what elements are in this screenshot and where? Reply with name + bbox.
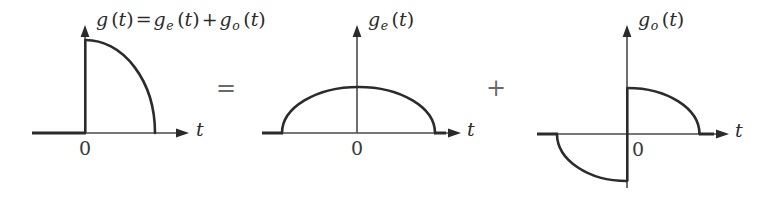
panel-ge-title-arg-open: ( [392, 8, 399, 30]
panel-g-title-term2-arg-open: ( [243, 8, 250, 30]
panel-g-title-term1-arg-close: ) [192, 8, 199, 30]
panel-g-title-arg-close: ) [126, 8, 133, 30]
panel-ge-graphics [262, 25, 461, 138]
panel-g-title-term1-sub: e [166, 18, 174, 33]
panel-go-graphics [537, 25, 729, 188]
panel-g-title-operator: + [200, 8, 220, 30]
signal-decomposition-figure: g(t)=ge(t)+go(t) 0 t = ge(t) 0 t + go(t)… [0, 0, 775, 201]
panel-g-title-arg-open: ( [111, 8, 118, 30]
panel-go-positive-quarter-ellipse [627, 88, 699, 134]
panel-go-x-axis-label: t [735, 121, 743, 140]
panel-g-title-term2-sub: o [232, 18, 241, 33]
panel-go-title-sub: o [650, 18, 659, 33]
panel-go-title: go(t) [638, 10, 684, 29]
panel-go-title-arg: t [669, 8, 677, 30]
panel-ge-title-fn: g [368, 8, 380, 30]
panel-ge-y-axis-arrowhead [353, 25, 362, 37]
panel-g-quarter-ellipse [85, 40, 155, 133]
panel-go-title-arg-close: ) [677, 8, 684, 30]
panel-go-title-arg-open: ( [662, 8, 669, 30]
panel-ge-title-arg-close: ) [407, 8, 414, 30]
panel-ge-title-arg: t [399, 8, 407, 30]
panel-g-x-axis-label: t [196, 120, 204, 139]
panel-g-title-term2-fn: g [220, 8, 232, 30]
panel-g-title-term2-arg-close: ) [258, 8, 265, 30]
panel-go-title-fn: g [638, 8, 650, 30]
panel-ge-x-axis-arrowhead [448, 129, 461, 138]
panel-go-negative-quarter-ellipse [557, 134, 627, 181]
panel-ge-half-ellipse [282, 87, 435, 133]
panel-g-graphics [32, 25, 189, 138]
panel-ge-x-axis-label: t [467, 120, 475, 139]
panel-g-x-axis-arrowhead [176, 129, 189, 138]
panel-ge-title: ge(t) [368, 10, 414, 29]
panel-g-title: g(t)=ge(t)+go(t) [96, 10, 266, 29]
panel-ge-origin-label: 0 [351, 139, 363, 158]
panel-g-title-relation: = [134, 8, 154, 30]
panel-g-origin-label: 0 [79, 139, 91, 158]
panel-go-y-axis-arrowhead [623, 25, 632, 37]
panel-g-title-term1-arg-open: ( [177, 8, 184, 30]
panel-g-title-fn: g [96, 8, 108, 30]
equals-operator: = [216, 76, 236, 100]
panel-go-origin-label: 0 [632, 140, 644, 159]
panel-go-x-axis-arrowhead [716, 130, 729, 139]
panel-g-title-term1-fn: g [154, 8, 166, 30]
panel-g-y-axis-arrowhead [81, 25, 90, 37]
panel-ge-title-sub: e [380, 18, 388, 33]
plus-operator: + [486, 76, 506, 100]
